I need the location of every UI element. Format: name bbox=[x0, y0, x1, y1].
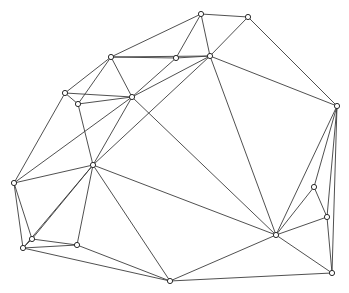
graph-node[interactable] bbox=[324, 214, 329, 219]
graph-node[interactable] bbox=[207, 53, 212, 58]
graph-node[interactable] bbox=[129, 94, 134, 99]
graph-node[interactable] bbox=[90, 162, 95, 167]
graph-node[interactable] bbox=[29, 236, 34, 241]
graph-node[interactable] bbox=[11, 180, 16, 185]
graph-node[interactable] bbox=[167, 278, 172, 283]
graph-node[interactable] bbox=[20, 245, 25, 250]
graph-node[interactable] bbox=[74, 242, 79, 247]
graph-node[interactable] bbox=[108, 54, 113, 59]
graph-node[interactable] bbox=[198, 11, 203, 16]
graph-node[interactable] bbox=[273, 232, 278, 237]
graph-node[interactable] bbox=[329, 270, 334, 275]
graph-node[interactable] bbox=[245, 14, 250, 19]
graph-node[interactable] bbox=[334, 103, 339, 108]
graph-node[interactable] bbox=[62, 90, 67, 95]
graph-node[interactable] bbox=[311, 184, 316, 189]
graph-node[interactable] bbox=[173, 55, 178, 60]
graph-figure bbox=[0, 0, 349, 293]
graph-node[interactable] bbox=[75, 101, 80, 106]
